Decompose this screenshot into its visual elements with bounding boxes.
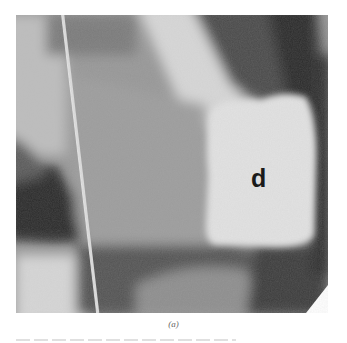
cut-off-text-line bbox=[16, 339, 236, 341]
figure-caption: (a) bbox=[0, 319, 347, 329]
mass-label-d: d bbox=[251, 166, 266, 191]
xray-image: d bbox=[16, 15, 328, 313]
xray-rendering bbox=[16, 15, 328, 313]
